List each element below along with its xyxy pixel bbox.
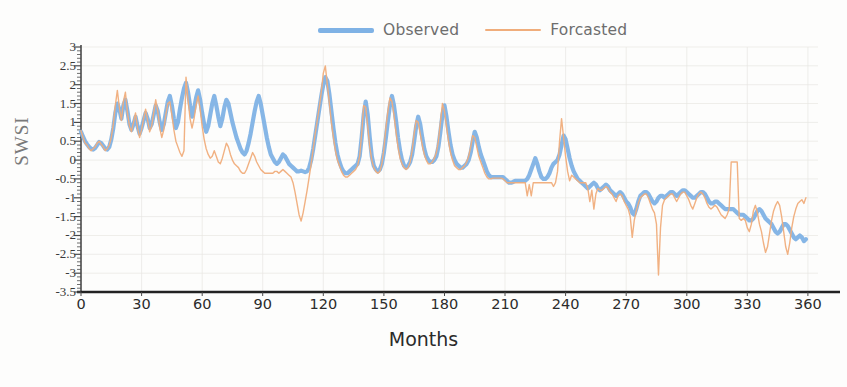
chart-figure: Observed Forcasted SWSI 32.521.510.50-0.…: [0, 0, 847, 387]
x-axis-tick-label: 270: [604, 296, 648, 312]
x-axis-tick-label: 0: [59, 296, 103, 312]
x-axis-tick-label: 120: [301, 296, 345, 312]
x-axis-tick-label: 300: [665, 296, 709, 312]
y-axis-ticks: [74, 47, 81, 292]
x-axis-tick-label: 360: [786, 296, 830, 312]
x-axis-tick-label: 240: [544, 296, 588, 312]
x-axis-tick-label: 30: [120, 296, 164, 312]
x-axis-title: Months: [0, 328, 847, 350]
x-axis-tick-label: 60: [180, 296, 224, 312]
x-axis-tick-label: 180: [422, 296, 466, 312]
x-axis-tick-label: 90: [241, 296, 285, 312]
gridlines: [81, 47, 818, 292]
x-axis-tick-label: 210: [483, 296, 527, 312]
x-axis-tick-label: 150: [362, 296, 406, 312]
x-axis-tick-label: 330: [725, 296, 769, 312]
